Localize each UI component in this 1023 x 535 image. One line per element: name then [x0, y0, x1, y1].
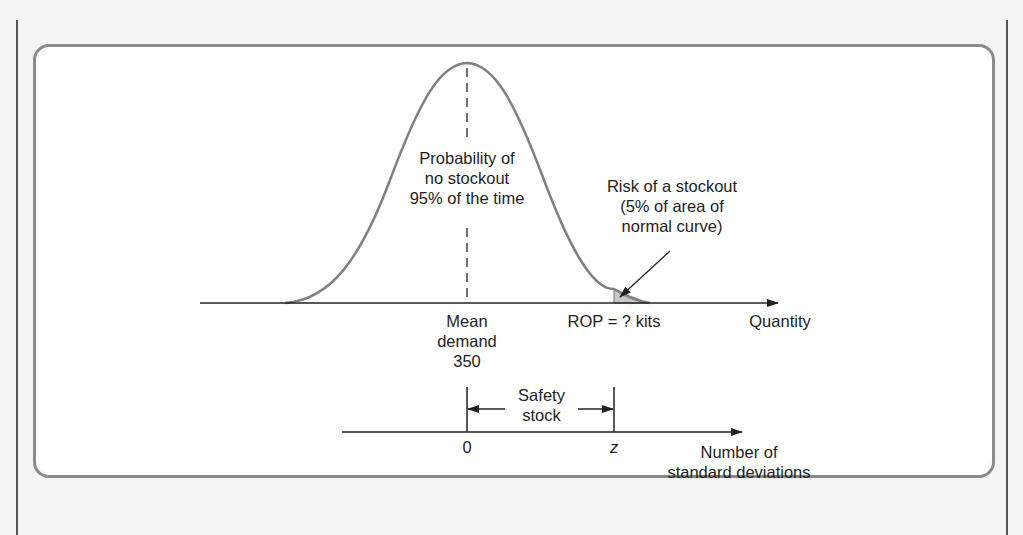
stockout-risk-label: Risk of a stockout (5% of area of normal…	[592, 176, 752, 236]
safety-stock-label: Safety stock	[505, 385, 578, 425]
z-tick-label: z	[604, 437, 624, 457]
mean-demand-label: Mean demand 350	[427, 311, 507, 371]
rop-label: ROP = ? kits	[552, 311, 676, 331]
normal-distribution-diagram	[0, 0, 1023, 535]
std-deviation-axis-label: Number of standard deviations	[644, 442, 834, 482]
stockout-callout-arrow	[620, 251, 670, 297]
quantity-axis-label: Quantity	[735, 311, 825, 331]
no-stockout-label: Probability of no stockout 95% of the ti…	[397, 148, 537, 208]
zero-tick-label: 0	[457, 437, 477, 457]
